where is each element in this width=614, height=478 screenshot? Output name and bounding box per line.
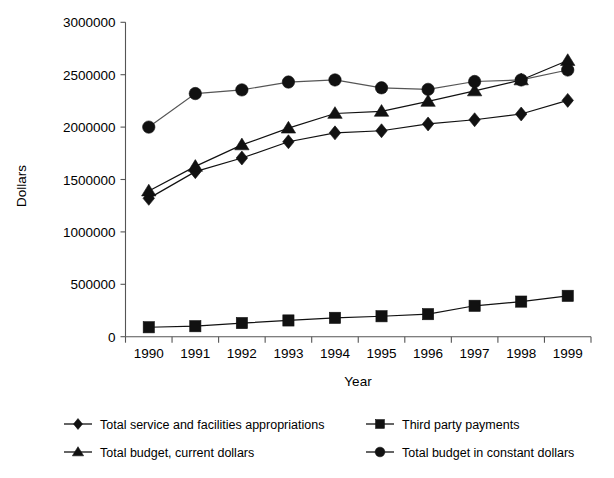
marker-circle: [329, 74, 341, 86]
legend-label: Total budget, current dollars: [100, 446, 254, 460]
x-axis-title: Year: [344, 374, 372, 389]
series-layer: [142, 54, 575, 333]
marker-diamond: [469, 113, 480, 127]
x-axis-tick-label: 1995: [367, 346, 397, 361]
y-axis-title: Dollars: [14, 165, 29, 207]
marker-circle: [422, 83, 434, 95]
series-polyline: [149, 70, 568, 127]
marker-circle: [468, 75, 480, 87]
marker-square: [376, 420, 385, 429]
marker-triangle: [281, 121, 295, 133]
marker-diamond: [236, 151, 247, 165]
marker-diamond: [74, 419, 83, 430]
x-axis-tick-label: 1994: [320, 346, 351, 361]
legend-label: Total service and facilities appropriati…: [100, 418, 324, 432]
legend-item-circle[interactable]: Total budget in constant dollars: [366, 446, 574, 460]
chart-canvas: 0500000100000015000002000000250000030000…: [0, 0, 614, 478]
marker-triangle: [142, 184, 156, 196]
marker-circle: [375, 82, 387, 94]
legend-label: Third party payments: [402, 418, 519, 432]
y-axis-tick-label: 500000: [70, 277, 115, 292]
series-diamond: [143, 93, 573, 205]
series-square: [143, 290, 573, 333]
marker-circle: [143, 121, 155, 133]
chart-legend: Total service and facilities appropriati…: [64, 418, 574, 460]
marker-circle: [515, 74, 527, 86]
marker-square: [190, 321, 201, 332]
x-axis-tick-label: 1996: [413, 346, 443, 361]
y-axis-tick-label: 2500000: [63, 68, 116, 83]
x-axis-tick-label: 1991: [180, 346, 210, 361]
legend-item-diamond[interactable]: Total service and facilities appropriati…: [64, 418, 324, 432]
y-axis-tick-label: 0: [108, 330, 116, 345]
x-axis-tick-label: 1999: [553, 346, 583, 361]
marker-circle: [189, 87, 201, 99]
y-axis-tick-label: 3000000: [63, 15, 116, 30]
y-axis-tick-label: 1000000: [63, 225, 116, 240]
legend-item-square[interactable]: Third party payments: [366, 418, 519, 432]
y-axis-tick-label: 2000000: [63, 120, 116, 135]
x-axis: 1990199119921993199419951996199719981999: [126, 337, 592, 361]
marker-square: [143, 322, 154, 333]
marker-square: [376, 311, 387, 322]
legend-label: Total budget in constant dollars: [402, 446, 574, 460]
marker-diamond: [329, 126, 340, 140]
series-polyline: [149, 100, 568, 198]
marker-square: [283, 315, 294, 326]
marker-diamond: [562, 93, 573, 107]
marker-square: [562, 290, 573, 301]
marker-square: [329, 312, 340, 323]
marker-square: [469, 300, 480, 311]
marker-circle: [562, 64, 574, 76]
x-axis-tick-label: 1998: [506, 346, 536, 361]
y-axis-tick-label: 1500000: [63, 173, 116, 188]
y-axis: 0500000100000015000002000000250000030000…: [63, 15, 126, 344]
marker-square: [422, 309, 433, 320]
marker-triangle: [72, 447, 83, 456]
marker-circle: [375, 447, 385, 457]
series-polyline: [149, 296, 568, 327]
x-axis-tick-label: 1990: [134, 346, 164, 361]
marker-circle: [282, 76, 294, 88]
marker-circle: [236, 84, 248, 96]
legend-item-triangle[interactable]: Total budget, current dollars: [64, 446, 254, 460]
chart-figure: 0500000100000015000002000000250000030000…: [0, 0, 614, 478]
marker-square: [516, 296, 527, 307]
marker-diamond: [283, 135, 294, 149]
marker-diamond: [376, 124, 387, 138]
marker-triangle: [235, 138, 249, 150]
x-axis-tick-label: 1993: [273, 346, 303, 361]
marker-square: [236, 317, 247, 328]
marker-diamond: [515, 107, 526, 121]
series-circle: [143, 64, 574, 134]
marker-diamond: [422, 117, 433, 131]
x-axis-tick-label: 1997: [460, 346, 490, 361]
series-triangle: [142, 54, 575, 196]
x-axis-tick-label: 1992: [227, 346, 257, 361]
marker-triangle: [188, 160, 202, 172]
marker-triangle: [328, 107, 342, 119]
